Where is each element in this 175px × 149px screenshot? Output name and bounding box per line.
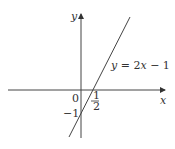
graph-canvas: y x y = 2x − 1 0 −1 1 2 [0, 0, 175, 149]
equation-label: y = 2x − 1 [110, 59, 170, 72]
y-intercept-label: −1 [63, 107, 79, 120]
y-axis-label: y [70, 10, 78, 23]
origin-label: 0 [72, 92, 79, 105]
svg-text:2: 2 [93, 100, 100, 113]
x-axis-label: x [160, 94, 167, 107]
x-intercept-label: 1 2 [91, 89, 100, 113]
